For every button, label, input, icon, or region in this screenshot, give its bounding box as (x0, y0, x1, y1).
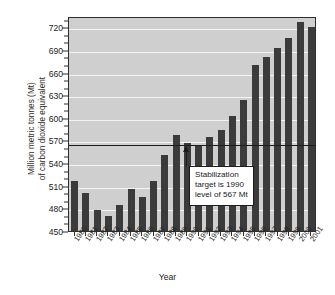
y-tick-label-570: 570 (23, 136, 63, 146)
y-tick-mark-630 (62, 96, 68, 97)
y-tick-minor-530 (64, 171, 68, 172)
y-tick-minor-590 (64, 126, 68, 127)
y-tick-minor-460 (64, 224, 68, 225)
y-tick-minor-640 (64, 88, 68, 89)
annotation-line-2: target is 1990 (195, 180, 248, 190)
bar-1996 (252, 65, 259, 231)
y-tick-minor-580 (64, 133, 68, 134)
y-tick-mark-450 (62, 232, 68, 233)
y-tick-minor-520 (64, 179, 68, 180)
y-tick-minor-550 (64, 156, 68, 157)
bar-1985 (128, 189, 135, 231)
y-tick-label-660: 660 (23, 69, 63, 79)
co2-emissions-bar-chart: Million metric tonnes (Mt) of carbon dio… (0, 0, 335, 295)
y-axis-title: Million metric tonnes (Mt) of carbon dio… (27, 29, 48, 229)
y-tick-minor-700 (64, 43, 68, 44)
y-tick-minor-560 (64, 149, 68, 150)
y-tick-mark-690 (62, 50, 68, 51)
y-tick-minor-670 (64, 66, 68, 67)
y-tick-label-720: 720 (23, 23, 63, 33)
y-tick-mark-510 (62, 186, 68, 187)
gridline-720 (69, 29, 315, 30)
y-tick-minor-470 (64, 216, 68, 217)
y-tick-minor-610 (64, 111, 68, 112)
bar-1999 (285, 38, 292, 231)
annotation-leader-line (186, 151, 187, 166)
y-tick-minor-650 (64, 81, 68, 82)
y-axis-title-line1: Million metric tonnes (Mt) (27, 29, 38, 229)
y-axis-title-line2: of carbon dioxide equivalent (37, 29, 48, 229)
annotation-line-1: Stabilization (195, 170, 248, 180)
y-tick-mark-720 (62, 28, 68, 29)
y-tick-label-690: 690 (23, 46, 63, 56)
y-tick-minor-680 (64, 58, 68, 59)
y-tick-label-540: 540 (23, 159, 63, 169)
y-tick-mark-600 (62, 118, 68, 119)
y-tick-label-510: 510 (23, 182, 63, 192)
y-tick-minor-710 (64, 35, 68, 36)
annotation-stabilization-target: Stabilization target is 1990 level of 56… (189, 166, 254, 206)
bar-2001 (308, 27, 315, 231)
bar-1987 (150, 181, 157, 231)
y-tick-mark-480 (62, 209, 68, 210)
y-tick-mark-540 (62, 164, 68, 165)
y-tick-label-600: 600 (23, 114, 63, 124)
y-tick-minor-490 (64, 201, 68, 202)
y-tick-label-480: 480 (23, 204, 63, 214)
bar-1989 (173, 135, 180, 231)
bar-2000 (297, 22, 304, 231)
y-tick-minor-730 (64, 20, 68, 21)
x-axis-title: Year (0, 272, 335, 282)
bar-1988 (161, 155, 168, 231)
y-tick-label-630: 630 (23, 91, 63, 101)
bar-1998 (274, 48, 281, 231)
bar-1980 (71, 181, 78, 231)
annotation-line-3: level of 567 Mt (195, 190, 248, 200)
reference-line-567 (69, 145, 315, 146)
y-tick-label-450: 450 (23, 227, 63, 237)
y-tick-minor-620 (64, 103, 68, 104)
y-tick-mark-570 (62, 141, 68, 142)
y-tick-mark-660 (62, 73, 68, 74)
y-tick-minor-500 (64, 194, 68, 195)
